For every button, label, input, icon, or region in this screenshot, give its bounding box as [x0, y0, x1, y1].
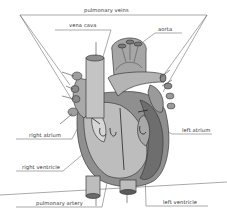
- label-left-ventricle: left ventricle: [163, 200, 197, 205]
- label-right-atrium: right atrium: [29, 133, 61, 138]
- label-right-ventricle: right ventricle: [22, 165, 60, 170]
- label-aorta: aorta: [158, 27, 172, 32]
- label-left-atrium: left atrium: [182, 128, 210, 133]
- heart-illustration: [0, 0, 227, 222]
- heart-diagram: pulmonary veins vena cava aorta right at…: [0, 0, 227, 222]
- label-pulmonary-veins: pulmonary veins: [84, 8, 129, 13]
- label-vena-cava: vena cava: [69, 23, 97, 28]
- label-pulmonary-artery: pulmonary artery: [36, 201, 83, 206]
